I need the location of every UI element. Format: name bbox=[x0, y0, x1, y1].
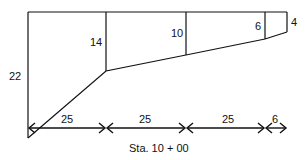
height-label-14: 14 bbox=[90, 36, 102, 48]
spacing-label-1: 25 bbox=[61, 113, 73, 125]
height-label-4: 4 bbox=[291, 16, 297, 28]
spacing-label-2: 25 bbox=[139, 113, 151, 125]
diagram-canvas: 22 14 10 6 4 25 25 25 6 Sta. 10 + 00 bbox=[0, 0, 307, 160]
height-label-6: 6 bbox=[255, 20, 261, 32]
cross-section-diagram: 22 14 10 6 4 25 25 25 6 Sta. 10 + 00 bbox=[0, 0, 307, 160]
spacing-label-3: 25 bbox=[222, 113, 234, 125]
height-label-22: 22 bbox=[9, 70, 21, 82]
height-label-10: 10 bbox=[171, 27, 183, 39]
spacing-label-4: 6 bbox=[272, 113, 278, 125]
station-label: Sta. 10 + 00 bbox=[129, 142, 189, 154]
